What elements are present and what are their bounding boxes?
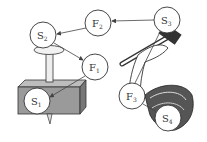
node-s1: S1 <box>24 88 50 114</box>
node-f1: F1 <box>82 54 108 80</box>
arrow-s3-f2 <box>112 20 154 21</box>
arrow-f2-s2 <box>57 28 86 34</box>
node-s3: S3 <box>154 7 180 33</box>
force-diagram: S2 F2 S3 F1 S1 F3 S4 <box>0 0 207 142</box>
node-s4: S4 <box>155 105 181 131</box>
node-f3: F3 <box>119 83 145 109</box>
node-f2: F2 <box>85 10 111 36</box>
nail-in-block-illustration <box>18 46 86 125</box>
node-s2: S2 <box>30 22 56 48</box>
